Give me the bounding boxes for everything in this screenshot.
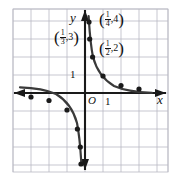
x-axis-label: x: [157, 92, 163, 108]
point-label-third-three: (13,3): [54, 29, 79, 47]
coordinate-plane: [0, 0, 176, 179]
data-point: [46, 98, 51, 103]
origin-label: O: [88, 94, 96, 106]
data-point: [78, 144, 83, 149]
point-label-quarter-four: (14,4): [99, 11, 124, 29]
data-point: [136, 86, 141, 91]
data-point: [28, 94, 33, 99]
data-point: [86, 19, 91, 24]
paren-close: ): [118, 39, 124, 58]
point-label-half-two: (12,2): [99, 40, 124, 58]
data-point: [64, 107, 69, 112]
data-point: [100, 73, 105, 78]
paren-close: ): [73, 28, 79, 47]
data-point: [118, 83, 123, 88]
data-point: [90, 54, 95, 59]
data-point: [87, 36, 92, 41]
data-point: [78, 161, 83, 166]
graph-figure: y x O 1 1 (14,4) (13,3) (12,2): [0, 0, 176, 179]
y-tick-label-1: 1: [70, 68, 76, 80]
paren-close: ): [118, 10, 124, 29]
x-tick-label-1: 1: [105, 95, 111, 107]
y-axis-label: y: [70, 10, 76, 26]
data-point: [75, 126, 80, 131]
x-axis-arrow-left: [14, 89, 25, 97]
